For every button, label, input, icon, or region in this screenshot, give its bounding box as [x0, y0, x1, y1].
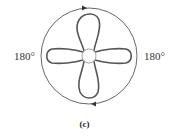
rotor-diagram — [0, 0, 169, 136]
figure: 180° 180° (c) — [0, 0, 169, 136]
lobe-bottom — [79, 61, 99, 98]
right-angle-label: 180° — [144, 51, 165, 62]
lobe-left — [47, 49, 83, 64]
figure-caption: (c) — [0, 119, 169, 129]
hub-circle — [82, 49, 96, 63]
left-angle-label: 180° — [14, 51, 35, 62]
arrow-top-icon — [82, 6, 87, 11]
arrow-bottom-icon — [91, 102, 96, 107]
lobe-right — [95, 49, 131, 64]
lobe-top — [77, 14, 100, 51]
